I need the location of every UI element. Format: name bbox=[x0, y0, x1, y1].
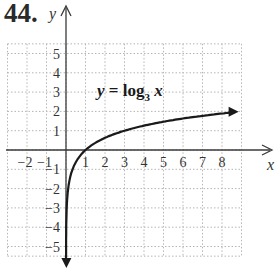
x-tick-label: 3 bbox=[121, 155, 128, 170]
y-tick-label: −2 bbox=[45, 182, 60, 197]
x-tick-label: 5 bbox=[160, 155, 167, 170]
curve-path bbox=[66, 112, 236, 262]
y-tick-label: −1 bbox=[45, 162, 60, 177]
y-tick-label: 2 bbox=[53, 104, 60, 119]
curve-arrow-down-icon bbox=[61, 258, 71, 268]
y-tick-label: 5 bbox=[53, 47, 60, 62]
x-tick-label: 8 bbox=[219, 155, 226, 170]
y-tick-label: −4 bbox=[45, 220, 60, 235]
x-axis-label: x bbox=[266, 156, 274, 173]
x-tick-label: 2 bbox=[102, 155, 109, 170]
equation-label: y = log3 x bbox=[95, 81, 163, 103]
x-tick-label: 6 bbox=[180, 155, 187, 170]
y-tick-label: 3 bbox=[53, 85, 60, 100]
curve-log3x bbox=[61, 107, 238, 268]
log-graph: −2−11234567854321−1−2−3−4−5 x y y = log3… bbox=[0, 0, 280, 271]
x-tick-label: −2 bbox=[18, 155, 33, 170]
x-tick-label: 7 bbox=[199, 155, 206, 170]
y-tick-label: −5 bbox=[45, 240, 60, 255]
y-axis-label: y bbox=[47, 5, 57, 23]
y-tick-label: −3 bbox=[45, 201, 60, 216]
y-tick-label: 1 bbox=[53, 124, 60, 139]
x-tick-label: 1 bbox=[82, 155, 89, 170]
curve-arrow-right-icon bbox=[229, 107, 239, 117]
y-tick-label: 4 bbox=[53, 66, 60, 81]
x-tick-label: 4 bbox=[141, 155, 148, 170]
